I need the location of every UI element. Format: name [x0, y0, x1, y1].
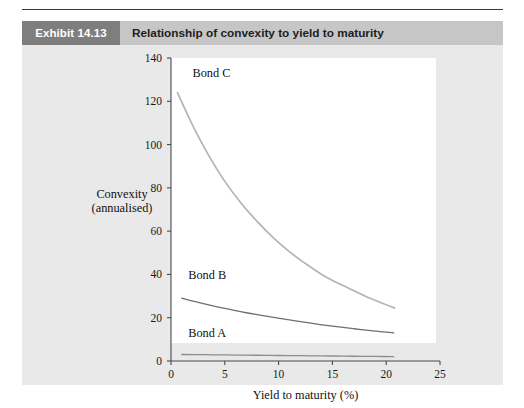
series-label-bond-c: Bond C	[193, 66, 231, 80]
exhibit-header-bar: Exhibit 14.13 Relationship of convexity …	[22, 21, 503, 45]
x-tick-label: 20	[380, 368, 392, 380]
x-axis-ticks: 0510152025	[168, 361, 446, 380]
series-label-bond-b: Bond B	[188, 268, 226, 282]
y-tick-label: 120	[145, 95, 163, 107]
x-axis-title: Yield to maturity (%)	[253, 388, 359, 402]
y-tick-label: 60	[151, 225, 163, 237]
y-tick-label: 40	[151, 268, 163, 280]
x-tick-label: 25	[434, 368, 446, 380]
axes-group	[171, 58, 440, 361]
chart-area: Convexity (annualised) 02040608010012014…	[22, 45, 503, 385]
exhibit-title: Relationship of convexity to yield to ma…	[132, 21, 384, 45]
x-tick-label: 5	[222, 368, 228, 380]
series-curves	[177, 93, 394, 357]
top-divider-rule	[22, 9, 503, 10]
series-labels: Bond ABond BBond C	[188, 66, 230, 340]
y-tick-label: 80	[151, 182, 163, 194]
y-tick-label: 100	[145, 139, 163, 151]
x-tick-label: 0	[168, 368, 174, 380]
y-tick-label: 20	[151, 312, 163, 324]
y-axis-ticks: 020406080100120140	[145, 52, 171, 367]
y-tick-label: 140	[145, 52, 163, 64]
curve-bond-a	[182, 355, 394, 357]
exhibit-panel: Exhibit 14.13 Relationship of convexity …	[22, 21, 503, 385]
exhibit-number-badge: Exhibit 14.13	[22, 21, 120, 45]
x-tick-label: 10	[273, 368, 285, 380]
y-tick-label: 0	[156, 355, 162, 367]
chart-svg: 020406080100120140 0510152025 Bond ABond…	[22, 45, 503, 385]
series-label-bond-a: Bond A	[188, 326, 226, 340]
exhibit-figure: Exhibit 14.13 Relationship of convexity …	[0, 0, 524, 408]
x-tick-label: 15	[327, 368, 339, 380]
